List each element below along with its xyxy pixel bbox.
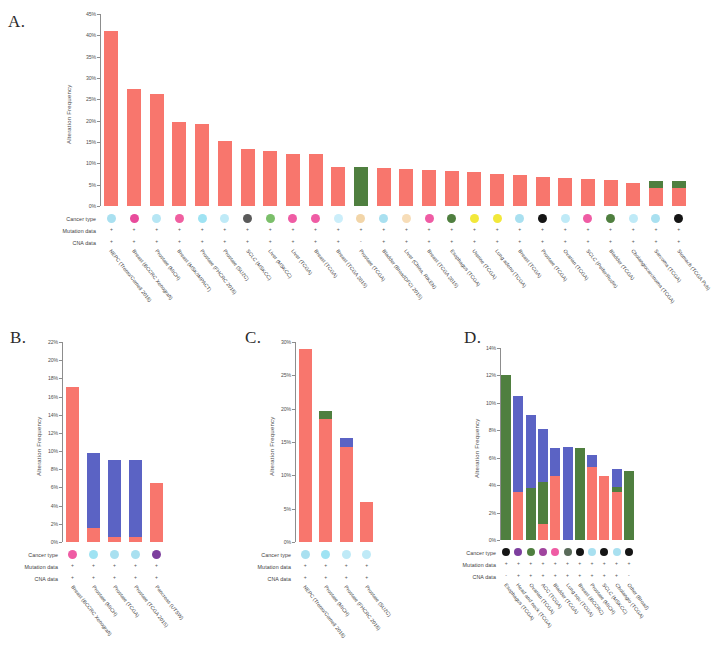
bar[interactable] [550,348,560,540]
cancer-type-dot[interactable] [527,548,535,556]
cancer-type-dot[interactable] [613,548,621,556]
cancer-type-dot[interactable] [651,214,660,223]
cancer-type-dot[interactable] [402,214,411,223]
cancer-type-dot[interactable] [301,550,310,559]
cancer-type-dot[interactable] [600,548,608,556]
cancer-type-dot[interactable] [68,550,77,559]
bar[interactable] [66,342,79,542]
bar[interactable] [581,14,595,206]
cancer-type-dot[interactable] [539,548,547,556]
bar[interactable] [195,14,209,206]
bar[interactable] [331,14,345,206]
bar[interactable] [563,348,573,540]
cancer-type-dot[interactable] [152,550,161,559]
bar[interactable] [490,14,504,206]
bar[interactable] [108,342,121,542]
cancer-type-dot[interactable] [198,214,207,223]
cancer-type-dot[interactable] [502,548,510,556]
cancer-type-dot[interactable] [583,214,592,223]
cancer-type-dot[interactable] [629,214,638,223]
bar[interactable] [649,14,663,206]
cancer-type-dot[interactable] [588,548,596,556]
bar[interactable] [360,342,373,542]
bar[interactable] [672,14,686,206]
bar[interactable] [526,348,536,540]
bar[interactable] [127,14,141,206]
bar[interactable] [587,348,597,540]
bar[interactable] [513,14,527,206]
cancer-type-dot[interactable] [538,214,547,223]
cancer-type-dot[interactable] [356,214,365,223]
bar[interactable] [422,14,436,206]
bar[interactable] [604,14,618,206]
bar[interactable] [377,14,391,206]
annotation-mark: + [527,561,535,566]
cancer-type-dot[interactable] [379,214,388,223]
cancer-type-dot[interactable] [89,550,98,559]
bar[interactable] [340,342,353,542]
bar[interactable] [286,14,300,206]
y-axis-line-panel-b [62,342,63,542]
cancer-type-dot[interactable] [493,214,502,223]
cancer-type-dot[interactable] [130,214,139,223]
cancer-type-dot[interactable] [576,548,584,556]
cancer-type-dot[interactable] [362,550,371,559]
bar[interactable] [558,14,572,206]
bar[interactable] [624,348,634,540]
cancer-type-dot[interactable] [447,214,456,223]
bar[interactable] [172,14,186,206]
cancer-type-dot[interactable] [107,214,116,223]
bar[interactable] [319,342,332,542]
cancer-type-dot[interactable] [674,214,683,223]
bar[interactable] [501,348,511,540]
cancer-type-dot[interactable] [425,214,434,223]
cancer-type-dot[interactable] [175,214,184,223]
cancer-type-dot[interactable] [514,548,522,556]
bar[interactable] [241,14,255,206]
bar[interactable] [612,348,622,540]
bar[interactable] [129,342,142,542]
annotation-mark: + [175,227,183,232]
annotation-mark: + [363,563,371,568]
bar[interactable] [575,348,585,540]
bar[interactable] [536,14,550,206]
bar[interactable] [150,342,163,542]
bar[interactable] [599,348,609,540]
cancer-type-dot[interactable] [321,550,330,559]
bar[interactable] [263,14,277,206]
bar[interactable] [87,342,100,542]
cancer-type-dot[interactable] [334,214,343,223]
bar[interactable] [626,14,640,206]
cancer-type-dot[interactable] [311,214,320,223]
bar[interactable] [513,348,523,540]
bar[interactable] [299,342,312,542]
cancer-type-dot[interactable] [110,550,119,559]
cancer-type-dot[interactable] [266,214,275,223]
y-tick-mark [497,540,500,541]
cancer-type-dot[interactable] [551,548,559,556]
cancer-type-dot[interactable] [564,548,572,556]
cancer-type-dot[interactable] [131,550,140,559]
cancer-type-dot[interactable] [625,548,633,556]
bar[interactable] [150,14,164,206]
cancer-type-dot[interactable] [152,214,161,223]
bar[interactable] [309,14,323,206]
bar[interactable] [104,14,118,206]
cancer-type-dot[interactable] [220,214,229,223]
bar-segment-mutation [263,151,277,206]
bar[interactable] [399,14,413,206]
cancer-type-dot[interactable] [515,214,524,223]
y-tick-label: 12% [36,430,58,436]
y-tick-mark [59,415,62,416]
cancer-type-dot[interactable] [288,214,297,223]
bar[interactable] [445,14,459,206]
cancer-type-dot[interactable] [561,214,570,223]
bar[interactable] [467,14,481,206]
cancer-type-dot[interactable] [342,550,351,559]
cancer-type-dot[interactable] [606,214,615,223]
bar[interactable] [538,348,548,540]
bar[interactable] [354,14,368,206]
bar[interactable] [218,14,232,206]
cancer-type-dot[interactable] [243,214,252,223]
cancer-type-dot[interactable] [470,214,479,223]
